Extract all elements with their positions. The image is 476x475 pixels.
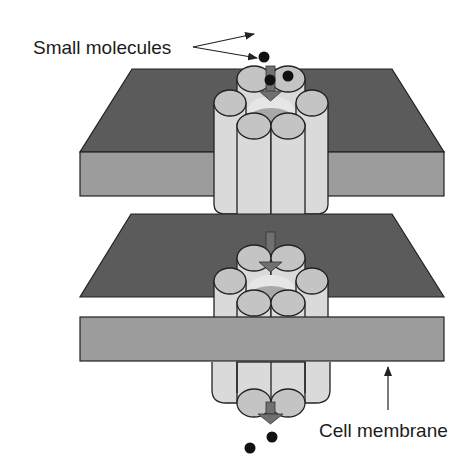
molecule-icon bbox=[259, 52, 270, 63]
molecule-icon bbox=[283, 71, 294, 82]
molecules-exiting bbox=[245, 432, 278, 454]
molecule-icon bbox=[245, 443, 256, 454]
small-molecules-label: Small molecules bbox=[33, 38, 171, 57]
diagram-canvas: Small molecules Cell membrane bbox=[0, 0, 476, 475]
small-molecules-pointers bbox=[193, 34, 257, 58]
molecule-icon bbox=[267, 432, 278, 443]
molecule-icon bbox=[265, 75, 276, 86]
lower-membrane-front-face bbox=[80, 317, 444, 361]
cell-membrane-label: Cell membrane bbox=[319, 421, 448, 440]
